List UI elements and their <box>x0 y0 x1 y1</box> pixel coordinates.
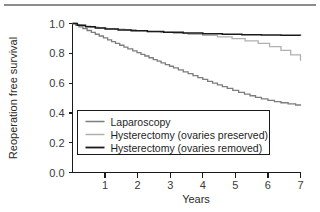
x-tick-label: 2 <box>135 179 141 191</box>
x-tick-label: 1 <box>102 179 108 191</box>
y-tick-label: 0.0 <box>49 167 64 179</box>
y-tick-label: 0.2 <box>49 137 64 149</box>
x-tick-label: 5 <box>232 179 238 191</box>
figure-container: 0.00.20.40.60.81.0 1234567 Reoperation f… <box>0 0 320 212</box>
series-lines <box>73 24 301 106</box>
y-tick-label: 0.8 <box>49 47 64 59</box>
x-tick-label: 6 <box>265 179 271 191</box>
survival-chart: 0.00.20.40.60.81.0 1234567 Reoperation f… <box>0 0 320 212</box>
legend-label-1: Hysterectomy (ovaries preserved) <box>111 129 269 141</box>
y-tick-label: 0.4 <box>49 107 64 119</box>
x-tick-label: 7 <box>297 179 303 191</box>
x-axis-ticks: 1234567 <box>102 173 304 191</box>
x-tick-label: 4 <box>200 179 206 191</box>
y-axis-title: Reoperation free survival <box>7 37 19 159</box>
legend-label-2: Hysterectomy (ovaries removed) <box>111 142 263 154</box>
y-axis-ticks: 0.00.20.40.60.81.0 <box>49 18 72 179</box>
legend: LaparoscopyHysterectomy (ovaries preserv… <box>78 111 270 155</box>
x-axis-title: Years <box>182 193 210 205</box>
legend-label-0: Laparoscopy <box>111 116 172 128</box>
x-tick-label: 3 <box>167 179 173 191</box>
series-line-2 <box>73 24 301 36</box>
y-tick-label: 0.6 <box>49 77 64 89</box>
y-tick-label: 1.0 <box>49 18 64 30</box>
